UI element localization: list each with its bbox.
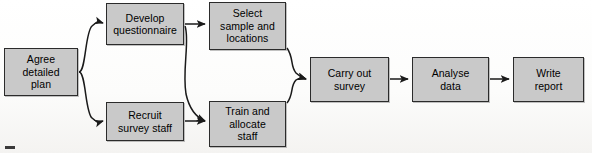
connector-develop-to-train (185, 26, 205, 121)
connector-select-to-carry-out (287, 48, 306, 79)
connector-layer (0, 0, 592, 153)
process-node-agree-detailed-plan[interactable]: Agree detailed plan (4, 48, 78, 96)
process-node-analyse-data[interactable]: Analyse data (412, 57, 489, 102)
figure-caption-mark (5, 146, 15, 149)
process-node-select-sample-and-locations[interactable]: Select sample and locations (209, 2, 286, 50)
process-node-carry-out-survey[interactable]: Carry out survey (310, 57, 389, 102)
connector-plan-to-recruit (79, 72, 103, 122)
process-node-write-report[interactable]: Write report (513, 57, 584, 102)
process-node-recruit-survey-staff[interactable]: Recruit survey staff (106, 102, 184, 141)
flowchart-figure: Agree detailed planDevelop questionnaire… (0, 0, 592, 153)
connector-plan-to-develop (79, 22, 103, 72)
connector-train-to-carry-out (287, 78, 306, 103)
process-node-develop-questionnaire[interactable]: Develop questionnaire (106, 3, 184, 45)
process-node-train-and-allocate-staff[interactable]: Train and allocate staff (209, 101, 286, 147)
